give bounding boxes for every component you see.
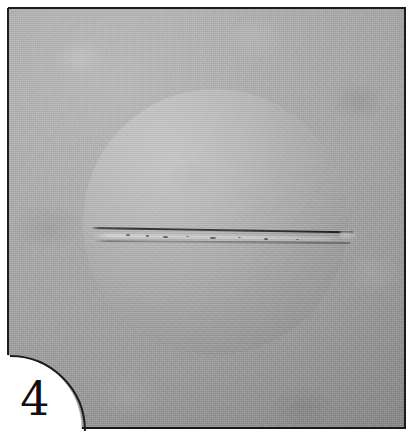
plate-number-label: 4	[9, 370, 61, 428]
figure-root: 4	[0, 0, 419, 444]
circular-disc-specimen	[83, 89, 347, 355]
disc-grain-texture	[83, 89, 347, 355]
disc-highlight-rim	[83, 89, 347, 355]
plate-border-left	[7, 8, 9, 355]
specimen-plate	[8, 8, 406, 429]
plate-border-right	[404, 8, 406, 429]
plate-border-top	[8, 7, 406, 9]
disc-soft-inner-highlight	[83, 89, 347, 355]
plate-border-bottom	[82, 427, 406, 429]
